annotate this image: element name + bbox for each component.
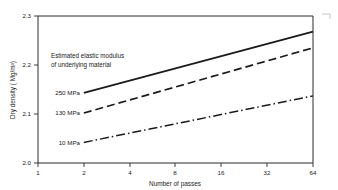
chart-figure: 2.0 2.1 2.2 2.3 1 2 4 8 16 32 64 Number …: [0, 0, 338, 190]
y-axis-ticks: [34, 16, 38, 163]
x-tick-label-1: 1: [36, 169, 40, 176]
y-axis-title: Dry density ( Mg/m³): [9, 61, 17, 119]
annotation-line-2: of underlying material: [51, 61, 111, 69]
annotation-line-1: Estimated elastic modulus: [51, 52, 124, 59]
x-tick-label-4: 4: [128, 169, 132, 176]
series-label-10-mpa: 10 MPa: [59, 139, 81, 146]
chart-canvas: 2.0 2.1 2.2 2.3 1 2 4 8 16 32 64 Number …: [0, 0, 338, 190]
y-tick-label-2-0: 2.0: [22, 159, 31, 166]
series-label-130-mpa: 130 MPa: [55, 109, 80, 116]
x-tick-label-32: 32: [264, 169, 271, 176]
x-tick-label-64: 64: [310, 169, 317, 176]
x-tick-label-2: 2: [82, 169, 86, 176]
y-axis-tick-labels: 2.0 2.1 2.2 2.3: [22, 12, 31, 166]
page-corner-artifact: [322, 14, 330, 19]
x-axis-ticks: [38, 163, 313, 167]
series-labels-group: 250 MPa 130 MPa 10 MPa: [55, 89, 80, 146]
series-line-250-mpa: [84, 32, 313, 93]
estimated-elastic-modulus-note: Estimated elastic modulus of underlying …: [51, 52, 124, 69]
y-tick-label-2-2: 2.2: [22, 61, 31, 68]
x-axis-tick-labels: 1 2 4 8 16 32 64: [36, 169, 317, 176]
data-series-group: [84, 32, 313, 143]
x-tick-label-16: 16: [218, 169, 225, 176]
series-label-250-mpa: 250 MPa: [55, 89, 80, 96]
y-tick-label-2-1: 2.1: [22, 110, 31, 117]
x-tick-label-8: 8: [173, 169, 177, 176]
x-axis-title: Number of passes: [149, 180, 201, 188]
series-line-10-mpa: [84, 96, 313, 143]
y-tick-label-2-3: 2.3: [22, 12, 31, 19]
